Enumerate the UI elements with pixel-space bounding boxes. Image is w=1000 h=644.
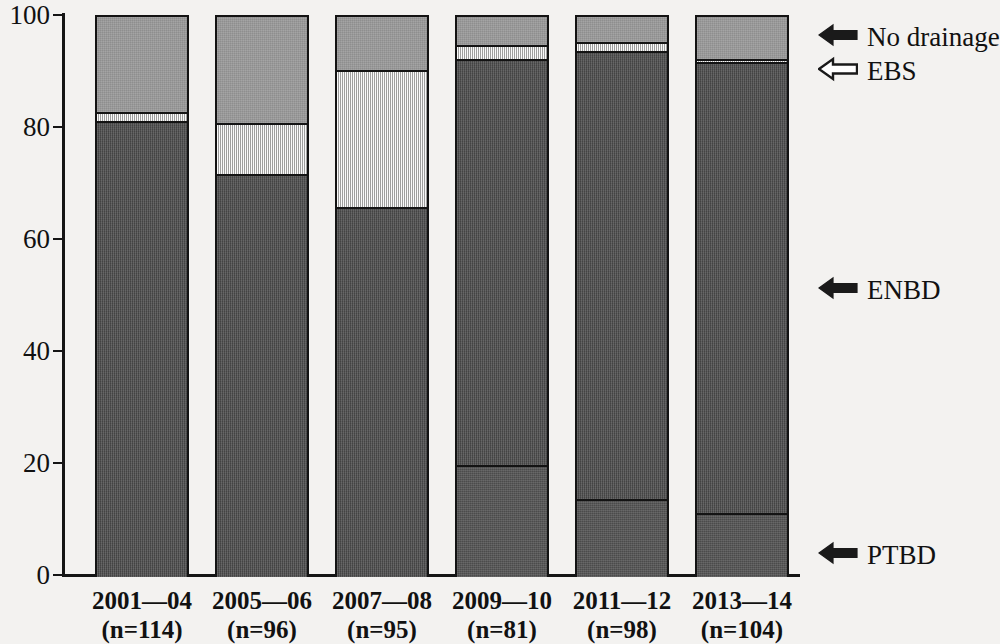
bar-segment-no-drainage (457, 17, 547, 45)
bar-segment-ptbd (457, 465, 547, 577)
y-tick-mark-40 (53, 350, 62, 352)
bar-segment-no-drainage (217, 17, 307, 123)
callout-label: ENBD (867, 277, 941, 304)
y-tick-label-100: 100 (2, 0, 50, 31)
callout-label: EBS (867, 58, 917, 85)
y-axis-line (62, 13, 65, 577)
bar-segment-ebs (457, 45, 547, 59)
callout-label: PTBD (867, 542, 936, 569)
callout-label: No drainage (867, 24, 1000, 51)
bar-segment-no-drainage (97, 17, 187, 112)
callout-ptbd: PTBD (818, 540, 936, 570)
bar-segment-ptbd (577, 499, 667, 577)
bar-segment-enbd (217, 174, 307, 577)
bar-segment-ebs (577, 42, 667, 50)
bar-segment-ebs (97, 112, 187, 120)
left-arrow-solid-icon (818, 275, 858, 305)
y-tick-mark-100 (53, 14, 62, 16)
bar-segment-no-drainage (337, 17, 427, 70)
bar-segment-ebs (217, 123, 307, 173)
x-label-n: (n=104) (667, 615, 817, 644)
callout-ebs: EBS (818, 56, 917, 86)
bar-segment-ptbd (697, 513, 787, 577)
bar-segment-no-drainage (577, 17, 667, 42)
callout-enbd: ENBD (818, 275, 941, 305)
x-label-2013-14: 2013—14 (n=104) (667, 586, 817, 644)
y-tick-mark-0 (53, 574, 62, 576)
bar-2011-12 (575, 15, 669, 575)
bar-2005-06 (215, 15, 309, 575)
left-arrow-solid-icon (818, 22, 858, 52)
bar-segment-no-drainage (697, 17, 787, 59)
bar-segment-enbd (97, 121, 187, 577)
y-tick-label-80: 80 (2, 112, 50, 143)
y-tick-label-40: 40 (2, 336, 50, 367)
y-tick-mark-60 (53, 238, 62, 240)
x-label-year: 2013—14 (667, 586, 817, 615)
y-tick-label-20: 20 (2, 448, 50, 479)
bar-segment-enbd (457, 59, 547, 465)
left-arrow-outline-icon (818, 56, 858, 86)
bar-2013-14 (695, 15, 789, 575)
y-tick-label-60: 60 (2, 224, 50, 255)
callout-no-drainage: No drainage (818, 22, 1000, 52)
bar-segment-enbd (577, 51, 667, 499)
bar-segment-ebs (337, 70, 427, 207)
bar-2007-08 (335, 15, 429, 575)
y-tick-mark-20 (53, 462, 62, 464)
left-arrow-solid-icon (818, 540, 858, 570)
bar-segment-enbd (697, 62, 787, 513)
bar-segment-enbd (337, 207, 427, 577)
bar-2009-10 (455, 15, 549, 575)
bar-2001-04 (95, 15, 189, 575)
y-tick-mark-80 (53, 126, 62, 128)
y-tick-label-0: 0 (2, 560, 50, 591)
